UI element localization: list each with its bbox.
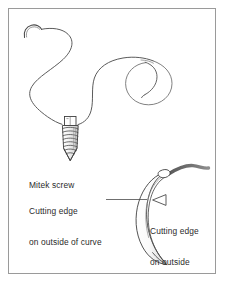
suture-coil-icon [126,60,172,105]
mitek-screw-icon [62,117,78,161]
suture-thread-main [30,28,72,124]
needle-hook-inner [26,27,39,37]
label-cutting-edge-outside-curve: Cutting edge on outside of curve [29,186,102,268]
figure-root: Mitek screw Cutting edge on outside of c… [0,0,226,284]
label-cutting-edge-outside: Cutting edge on outside [150,206,199,284]
suture-thread-right-limb [78,57,153,124]
label-cutting-edge-outside-curve-line1: Cutting edge [29,206,102,216]
suture-thread-icon [24,25,153,125]
label-cutting-edge-outside-curve-line2: on outside of curve [29,237,102,247]
arrowhead-left-icon [153,195,166,206]
needle-suture-tail [169,166,209,174]
label-cutting-edge-outside-line2: on outside [150,257,199,267]
suture-coil-inner [145,62,157,94]
suture-coil-outer [126,61,172,105]
blade-swage-end [158,170,170,178]
label-cutting-edge-outside-line1: Cutting edge [150,226,199,236]
suture-coil-tail [142,95,145,98]
